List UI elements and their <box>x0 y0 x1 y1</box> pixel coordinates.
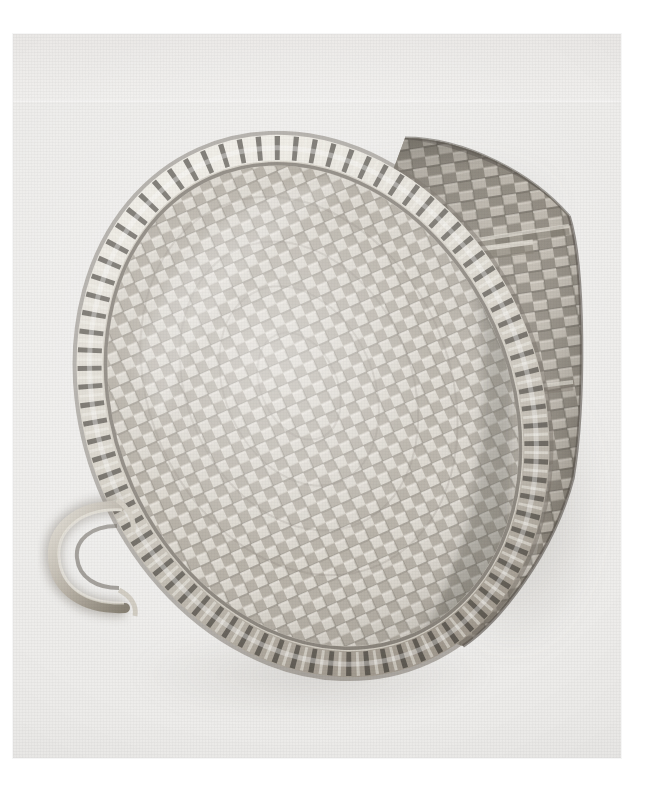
film-grain-overlay <box>13 34 621 758</box>
basket-photograph-content <box>13 34 621 758</box>
photograph <box>13 34 621 758</box>
photo-stage <box>0 0 655 799</box>
